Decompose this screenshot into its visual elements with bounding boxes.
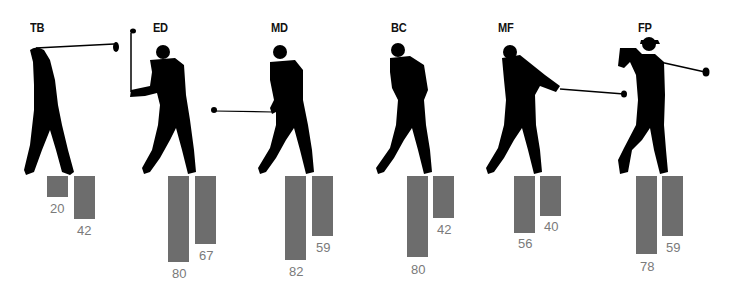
bar-fp-right — [662, 176, 683, 236]
golfer-fp-silhouette-icon — [618, 37, 710, 174]
golfer-md-silhouette-icon — [211, 45, 314, 174]
value-tb-right: 42 — [77, 223, 91, 238]
golfer-tb-silhouette-icon — [24, 42, 119, 175]
value-md-left: 82 — [289, 264, 303, 279]
value-bc-left: 80 — [411, 262, 425, 277]
bar-tb-right — [74, 176, 95, 219]
golfer-mf-silhouette-icon — [486, 45, 627, 174]
golfer-ed-silhouette-icon — [130, 29, 196, 175]
bar-mf-left — [514, 176, 535, 233]
golfer-silhouettes-icon — [0, 0, 731, 180]
value-fp-right: 59 — [666, 240, 680, 255]
value-fp-left: 78 — [640, 259, 654, 274]
bar-md-right — [312, 176, 333, 236]
bar-md-left — [285, 176, 306, 260]
value-md-right: 59 — [316, 240, 330, 255]
value-ed-left: 80 — [172, 266, 186, 281]
golfer-bc-silhouette-icon — [376, 43, 432, 174]
bar-bc-left — [407, 176, 428, 257]
bar-bc-right — [433, 176, 454, 218]
bar-tb-left — [47, 176, 68, 197]
bar-mf-right — [540, 176, 561, 216]
value-bc-right: 42 — [437, 222, 451, 237]
bar-fp-left — [636, 176, 657, 254]
value-tb-left: 20 — [50, 201, 64, 216]
bar-ed-left — [168, 176, 189, 262]
value-mf-right: 40 — [544, 219, 558, 234]
value-mf-left: 56 — [518, 236, 532, 251]
bar-ed-right — [195, 176, 216, 244]
value-ed-right: 67 — [199, 248, 213, 263]
